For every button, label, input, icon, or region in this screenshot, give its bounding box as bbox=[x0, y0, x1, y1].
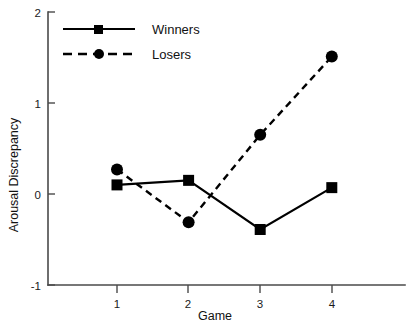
winners-point-4 bbox=[326, 182, 337, 193]
x-axis-title: Game bbox=[198, 309, 232, 323]
line-chart-plot: 2 1 0 -1 1 2 3 4 Game Arousal Discrepanc… bbox=[0, 0, 412, 325]
losers-markers bbox=[111, 51, 338, 229]
winners-point-2 bbox=[183, 175, 194, 186]
losers-point-3 bbox=[254, 129, 266, 141]
y-axis-title: Arousal Discrepancy bbox=[7, 117, 21, 232]
legend-item-winners: Winners bbox=[63, 22, 200, 37]
winners-point-1 bbox=[112, 179, 123, 190]
legend-item-losers: Losers bbox=[63, 47, 192, 62]
y-tick-label-neg1: -1 bbox=[31, 280, 41, 292]
legend-losers-circle-marker bbox=[94, 49, 104, 59]
y-tick-label-0: 0 bbox=[35, 189, 41, 201]
legend-label-winners: Winners bbox=[152, 22, 200, 37]
series-losers bbox=[111, 51, 338, 229]
x-axis-ticks bbox=[117, 285, 332, 293]
y-tick-label-1: 1 bbox=[35, 98, 41, 110]
y-tick-label-2: 2 bbox=[35, 7, 41, 19]
x-tick-label-1: 1 bbox=[114, 298, 120, 310]
x-tick-label-2: 2 bbox=[185, 298, 191, 310]
losers-point-4 bbox=[326, 51, 338, 63]
losers-line bbox=[117, 57, 332, 223]
chart-figure: 2 1 0 -1 1 2 3 4 Game Arousal Discrepanc… bbox=[0, 0, 412, 325]
chart-legend: Winners Losers bbox=[63, 22, 200, 62]
winners-line bbox=[117, 180, 332, 229]
losers-point-1 bbox=[111, 163, 123, 175]
legend-label-losers: Losers bbox=[152, 47, 192, 62]
y-axis-ticks bbox=[48, 12, 55, 285]
legend-winners-square-marker bbox=[94, 25, 103, 34]
x-tick-label-3: 3 bbox=[257, 298, 263, 310]
x-tick-label-4: 4 bbox=[329, 298, 336, 310]
losers-point-2 bbox=[183, 216, 195, 228]
winners-point-3 bbox=[255, 224, 266, 235]
series-winners bbox=[112, 175, 338, 235]
